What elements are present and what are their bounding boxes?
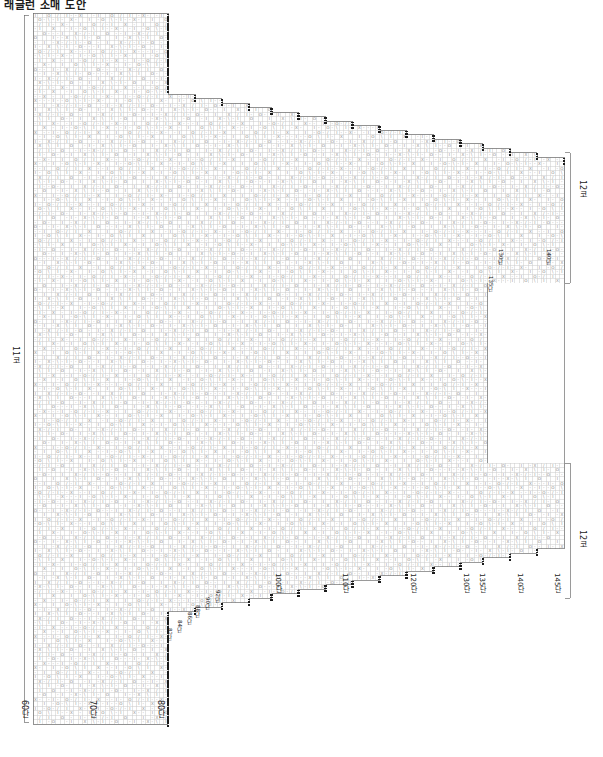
svg-text:X: X bbox=[403, 166, 406, 171]
svg-text:I: I bbox=[359, 134, 360, 139]
svg-text:-: - bbox=[246, 593, 248, 598]
svg-text:-: - bbox=[480, 508, 482, 513]
svg-text:I: I bbox=[39, 656, 40, 661]
svg-text:O: O bbox=[493, 247, 496, 252]
svg-text:-: - bbox=[498, 278, 500, 283]
svg-text:I: I bbox=[35, 674, 36, 679]
svg-text:-: - bbox=[480, 539, 482, 544]
svg-text:O: O bbox=[556, 247, 559, 252]
svg-text:-: - bbox=[395, 283, 397, 288]
svg-text:-: - bbox=[318, 557, 320, 562]
svg-text:X: X bbox=[214, 134, 217, 139]
svg-text:O: O bbox=[259, 143, 262, 148]
svg-text:-: - bbox=[129, 526, 131, 531]
svg-text:I: I bbox=[35, 170, 36, 175]
svg-text:-: - bbox=[44, 332, 46, 337]
svg-text:I: I bbox=[48, 211, 49, 216]
svg-text:I: I bbox=[287, 233, 288, 238]
svg-text:-: - bbox=[305, 202, 307, 207]
svg-text:I: I bbox=[498, 238, 499, 243]
svg-text:I: I bbox=[381, 265, 382, 270]
svg-text:O: O bbox=[403, 260, 406, 265]
svg-text:-: - bbox=[111, 530, 113, 535]
svg-text:-: - bbox=[318, 152, 320, 157]
svg-text:O: O bbox=[70, 143, 73, 148]
svg-text:O: O bbox=[115, 688, 118, 693]
svg-text:I: I bbox=[84, 413, 85, 418]
svg-text:-: - bbox=[183, 598, 185, 603]
svg-text:-: - bbox=[255, 553, 257, 558]
svg-text:-: - bbox=[192, 521, 194, 526]
svg-text:-: - bbox=[75, 139, 77, 144]
svg-text:-: - bbox=[282, 296, 284, 301]
svg-text:I: I bbox=[494, 508, 495, 513]
svg-text:I: I bbox=[404, 238, 405, 243]
svg-text:I: I bbox=[413, 454, 414, 459]
svg-text:-: - bbox=[80, 440, 82, 445]
svg-text:-: - bbox=[305, 584, 307, 589]
svg-text:-: - bbox=[260, 125, 262, 130]
svg-text:X: X bbox=[439, 494, 442, 499]
svg-text:I: I bbox=[62, 62, 63, 67]
svg-text:X: X bbox=[70, 301, 73, 306]
svg-text:O: O bbox=[250, 463, 253, 468]
svg-text:I: I bbox=[305, 161, 306, 166]
svg-text:-: - bbox=[300, 472, 302, 477]
svg-text:-: - bbox=[273, 364, 275, 369]
svg-text:-: - bbox=[197, 188, 199, 193]
svg-text:O: O bbox=[124, 400, 127, 405]
svg-text:-: - bbox=[66, 467, 68, 472]
svg-text:-: - bbox=[305, 427, 307, 432]
svg-text:-: - bbox=[377, 481, 379, 486]
svg-text:-: - bbox=[93, 71, 95, 76]
svg-text:-: - bbox=[291, 251, 293, 256]
svg-text:I: I bbox=[170, 575, 171, 580]
svg-text:I: I bbox=[336, 571, 337, 576]
svg-text:O: O bbox=[187, 400, 190, 405]
svg-text:-: - bbox=[291, 125, 293, 130]
svg-text:-: - bbox=[264, 368, 266, 373]
svg-text:-: - bbox=[354, 319, 356, 324]
svg-text:-: - bbox=[296, 422, 298, 427]
svg-text:-: - bbox=[224, 436, 226, 441]
svg-text:I: I bbox=[291, 341, 292, 346]
svg-text:I: I bbox=[192, 359, 193, 364]
svg-text:-: - bbox=[350, 301, 352, 306]
svg-text:I: I bbox=[161, 170, 162, 175]
svg-text:-: - bbox=[161, 530, 163, 535]
svg-text:-: - bbox=[107, 454, 109, 459]
svg-text:X: X bbox=[142, 454, 145, 459]
svg-text:-: - bbox=[251, 359, 253, 364]
chart-canvas: IO/I--X-IO/I-X--IO-\-I-X-I-O\-I--X-IO/I-… bbox=[0, 0, 603, 757]
svg-text:-: - bbox=[179, 359, 181, 364]
svg-text:I: I bbox=[161, 139, 162, 144]
svg-text:-: - bbox=[359, 454, 361, 459]
svg-text:-: - bbox=[111, 224, 113, 229]
svg-text:-: - bbox=[134, 67, 136, 72]
svg-text:-: - bbox=[147, 49, 149, 54]
svg-text:-: - bbox=[422, 139, 424, 144]
svg-text:I: I bbox=[192, 328, 193, 333]
svg-text:-: - bbox=[359, 359, 361, 364]
svg-text:X: X bbox=[556, 530, 559, 535]
svg-text:-: - bbox=[57, 305, 59, 310]
svg-text:I: I bbox=[125, 503, 126, 508]
svg-text:I: I bbox=[80, 179, 81, 184]
svg-text:I: I bbox=[408, 377, 409, 382]
svg-text:I: I bbox=[120, 679, 121, 684]
svg-text:-: - bbox=[440, 193, 442, 198]
svg-text:-: - bbox=[440, 508, 442, 513]
svg-text:X: X bbox=[313, 242, 316, 247]
svg-text:-: - bbox=[350, 332, 352, 337]
svg-text:X: X bbox=[412, 382, 415, 387]
svg-text:-: - bbox=[170, 526, 172, 531]
svg-text:-: - bbox=[134, 94, 136, 99]
svg-text:-: - bbox=[287, 521, 289, 526]
svg-text:O: O bbox=[421, 440, 424, 445]
svg-text:-: - bbox=[561, 526, 563, 531]
svg-text:I: I bbox=[458, 431, 459, 436]
svg-text:-: - bbox=[71, 224, 73, 229]
svg-text:O: O bbox=[241, 152, 244, 157]
svg-text:-: - bbox=[71, 94, 73, 99]
svg-text:-: - bbox=[89, 53, 91, 58]
